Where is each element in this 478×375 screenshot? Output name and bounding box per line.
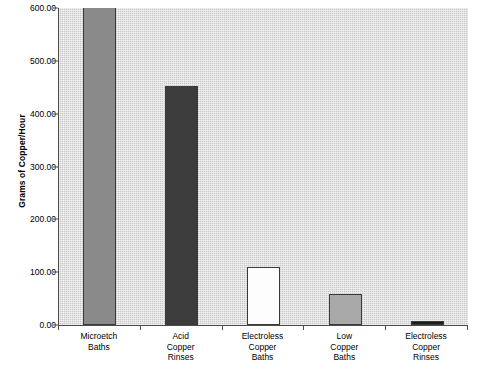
bar-chart: Grams of Copper/Hour 0.00100.00200.00300… [0,0,478,375]
y-tick-label: 0.00 [0,320,56,330]
bar [165,86,198,325]
y-tick-label: 100.00 [0,267,56,277]
x-tick-mark [222,325,223,330]
y-tick-label: 600.00 [0,3,56,13]
x-tick-mark [467,325,468,330]
bar [329,294,362,325]
x-tick-mark [303,325,304,330]
bar [247,267,280,325]
y-tick-label: 300.00 [0,162,56,172]
bar [411,321,444,325]
x-tick-mark [58,325,59,330]
x-tick-label: ElectrolessCopperRinses [371,331,478,363]
bar [83,8,116,325]
x-tick-mark [385,325,386,330]
plot-area [58,8,468,326]
y-tick-label: 200.00 [0,214,56,224]
y-tick-label: 500.00 [0,56,56,66]
x-tick-mark [140,325,141,330]
x-tick-label-line: Rinses [371,352,478,363]
x-tick-label-line: Electroless [371,331,478,342]
x-tick-label-line: Copper [371,342,478,353]
y-tick-label: 400.00 [0,109,56,119]
